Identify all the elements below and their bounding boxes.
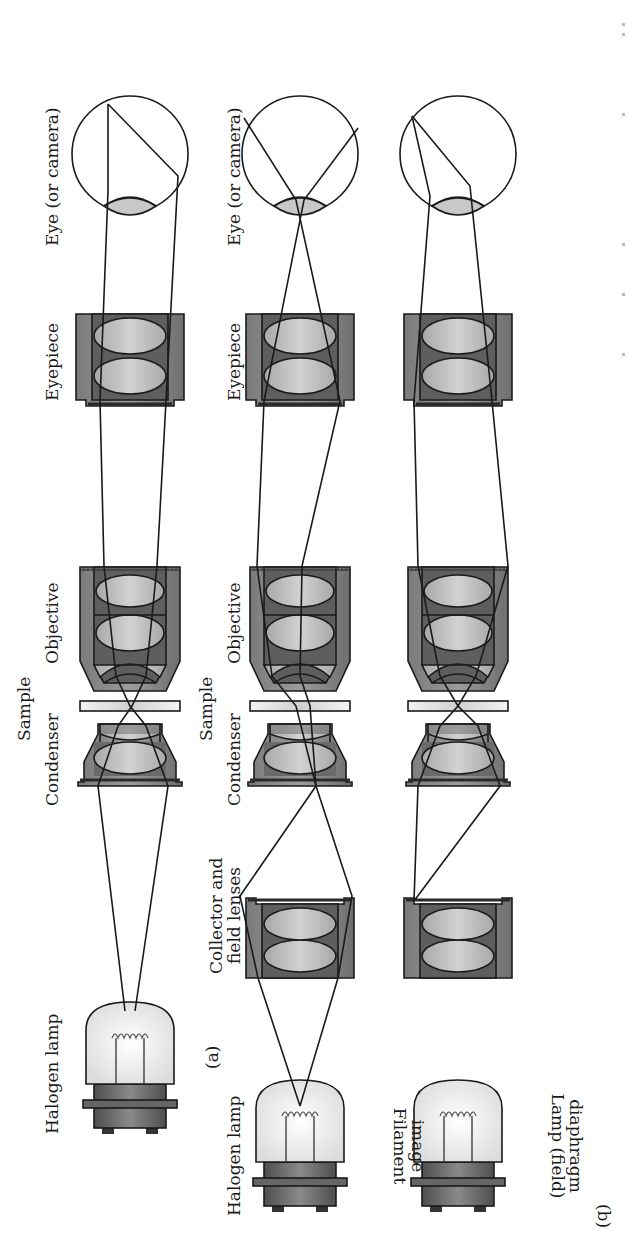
ray-a1 <box>98 104 178 1011</box>
microscope-diagram: Halogen lamp Condenser Sample Objective … <box>0 0 639 1236</box>
sample-slide-icon <box>250 701 350 711</box>
halogen-lamp-icon <box>83 1002 177 1134</box>
eye-icon <box>72 96 188 215</box>
label-sample-b: Sample <box>196 677 216 741</box>
label-eyepiece-b: Eyepiece <box>224 323 244 401</box>
label-eye-b: Eye (or camera) <box>224 107 244 246</box>
label-eyepiece-a: Eyepiece <box>42 323 62 401</box>
label-eye-a: Eye (or camera) <box>42 107 62 246</box>
svg-text:image: image <box>408 1120 428 1173</box>
panel-a: Halogen lamp Condenser Sample Objective … <box>14 96 222 1134</box>
label-collector-b-2: field lenses <box>224 867 244 964</box>
label-halogen-lamp-a: Halogen lamp <box>42 1013 62 1134</box>
panel-label-a: (a) <box>202 1046 222 1069</box>
label-condenser-a: Condenser <box>42 712 62 806</box>
collector-lens-icon <box>404 898 512 978</box>
panel-b-diaphragm-row <box>400 96 516 1212</box>
svg-text:diaphragm: diaphragm <box>566 1099 586 1193</box>
label-objective-b: Objective <box>224 582 244 664</box>
label-condenser-b: Condenser <box>224 712 244 806</box>
eye-icon <box>400 96 516 215</box>
figure-stage: Halogen lamp Condenser Sample Objective … <box>0 0 639 1236</box>
label-sample-a: Sample <box>14 677 34 741</box>
objective-icon <box>80 567 180 691</box>
collector-lens-icon <box>246 898 354 978</box>
label-halogen-lamp-b: Halogen lamp <box>224 1095 244 1216</box>
objective-icon <box>408 567 508 691</box>
condenser-icon <box>248 724 352 786</box>
row-label-diaphragm: Lamp (field) diaphragm <box>548 1094 586 1199</box>
svg-text:Lamp (field): Lamp (field) <box>548 1094 568 1199</box>
label-collector-b: Collector and <box>206 858 226 974</box>
eye-icon <box>242 96 358 215</box>
label-objective-a: Objective <box>42 582 62 664</box>
caption-fragments <box>622 23 625 356</box>
halogen-lamp-icon <box>253 1080 347 1212</box>
svg-text:Filament: Filament <box>390 1108 410 1185</box>
panel-b: Halogen lamp Collector and field lenses … <box>196 96 614 1228</box>
svg-text:(b): (b) <box>594 1204 614 1228</box>
condenser-icon <box>78 724 182 786</box>
panel-label-b: (b) <box>594 1204 614 1228</box>
panel-b-filament-row <box>240 96 358 1212</box>
